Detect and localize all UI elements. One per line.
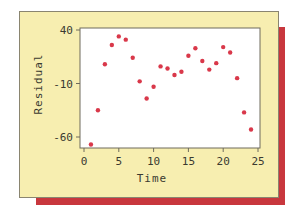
data-point	[131, 56, 135, 60]
y-axis-label: Residual	[32, 54, 45, 115]
data-point	[249, 127, 253, 131]
data-point	[172, 73, 176, 77]
data-point	[242, 110, 246, 114]
data-point	[186, 53, 190, 57]
x-axis: 0510152025	[81, 148, 265, 168]
data-point	[151, 85, 155, 89]
data-point	[200, 59, 204, 63]
x-tick-label: 10	[147, 155, 160, 168]
scatter-chart: 40-10-60 0510152025 Time Residual	[0, 0, 305, 217]
plot-area	[80, 28, 260, 148]
data-point	[228, 50, 232, 54]
y-tick-label: -60	[53, 131, 73, 144]
x-tick-label: 0	[81, 155, 88, 168]
data-point	[117, 34, 121, 38]
data-point	[193, 46, 197, 50]
data-point	[165, 66, 169, 70]
data-point	[214, 61, 218, 65]
y-axis: 40-10-60	[53, 24, 80, 144]
data-point	[96, 108, 100, 112]
x-tick-label: 20	[217, 155, 230, 168]
x-tick-label: 15	[182, 155, 195, 168]
data-point	[144, 96, 148, 100]
data-point	[207, 67, 211, 71]
data-point	[221, 45, 225, 49]
data-point	[103, 62, 107, 66]
y-tick-label: -10	[53, 78, 73, 91]
data-point	[179, 70, 183, 74]
data-point	[89, 142, 93, 146]
x-tick-label: 5	[115, 155, 122, 168]
data-point	[110, 43, 114, 47]
x-axis-label: Time	[137, 172, 168, 185]
y-tick-label: 40	[60, 24, 73, 37]
data-point	[235, 76, 239, 80]
x-tick-label: 25	[251, 155, 264, 168]
data-point	[158, 64, 162, 68]
data-point	[137, 79, 141, 83]
data-point	[124, 37, 128, 41]
